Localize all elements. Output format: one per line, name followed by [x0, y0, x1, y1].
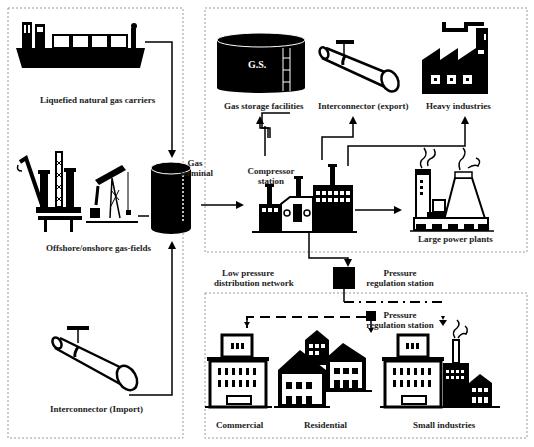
low-pressure-network-label-line2: distribution network [214, 278, 282, 288]
factory-icon [422, 22, 488, 94]
pressure-regulation-2-label-line2: regulation station [360, 320, 440, 330]
lng-ship-icon [16, 22, 145, 68]
gas-fields-label: Offshore/onshore gas-fields [46, 243, 151, 253]
pressure-regulation-station-1-icon [333, 267, 355, 302]
interconnector-import-label: Interconnector (Import) [50, 404, 143, 414]
low-pressure-network-label-line1: Low pressure [214, 268, 282, 278]
houses-icon [274, 330, 372, 407]
pressure-regulation-1-label-line2: regulation station [360, 278, 440, 288]
commercial-label: Commercial [216, 420, 263, 430]
pipeline-export-icon [318, 40, 402, 94]
gas-terminal-label: Gas terminal [180, 158, 210, 178]
compressor-station-label-line2: station [246, 176, 296, 186]
lng-carriers-label: Liquefied natural gas carriers [40, 95, 155, 105]
pressure-regulation-1-label-line1: Pressure [360, 268, 440, 278]
power-plant-icon [410, 148, 494, 231]
low-pressure-network-label: Low pressure distribution network [214, 268, 282, 288]
pressure-regulation-2-label-line1: Pressure [360, 310, 440, 320]
small-factory-icon [380, 320, 500, 407]
large-power-plants-label: Large power plants [418, 234, 493, 244]
gas-terminal-label-line1: Gas [180, 158, 210, 168]
heavy-industries-label: Heavy industries [426, 101, 491, 111]
residential-label: Residential [304, 420, 347, 430]
compressor-station-label: Compressor station [246, 166, 296, 186]
pressure-regulation-1-label: Pressure regulation station [360, 268, 440, 288]
pipeline-import-icon [51, 326, 142, 394]
small-industries-label: Small industries [413, 420, 475, 430]
diagram-graphics [0, 0, 534, 447]
gas-terminal-label-line2: terminal [180, 168, 210, 178]
gas-storage-label: Gas storage facilities [224, 101, 303, 111]
gas-supply-chain-diagram: Liquefied natural gas carriers Offshore/… [0, 0, 534, 447]
interconnector-export-label: Interconnector (export) [318, 101, 408, 111]
oil-rig-pumpjack-icon [18, 152, 139, 232]
office-building-icon [205, 335, 272, 407]
compressor-station-label-line1: Compressor [246, 166, 296, 176]
gas-storage-tank-text: G.S. [248, 60, 266, 70]
pressure-regulation-2-label: Pressure regulation station [360, 310, 440, 330]
